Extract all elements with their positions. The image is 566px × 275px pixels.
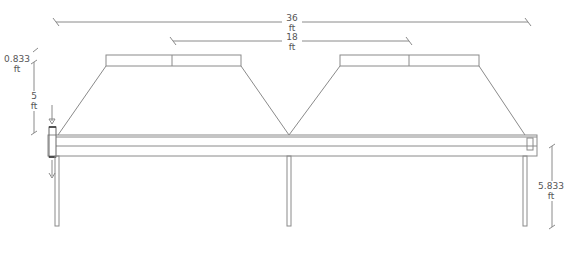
dim-unit: ft — [536, 191, 566, 201]
left-hood-side-l — [58, 66, 106, 135]
beam-end-fitting-left — [49, 127, 56, 157]
dim-value: 18 — [282, 32, 302, 42]
dim-label-overall: 36 ft — [282, 13, 302, 33]
dim-unit: ft — [26, 101, 42, 111]
right-hood-side-l — [289, 66, 340, 135]
leg-left — [55, 156, 59, 226]
right-hood-side-r — [479, 66, 525, 135]
dim-tick — [33, 48, 38, 52]
dim-value: 0.833 — [3, 54, 31, 64]
dim-label-hood-height: 5 ft — [26, 91, 42, 111]
leg-right — [523, 156, 527, 226]
dim-unit: ft — [282, 42, 302, 52]
dim-value: 5 — [26, 91, 42, 101]
dim-label-spacing: 18 ft — [282, 32, 302, 52]
left-hood-side-r — [241, 66, 289, 135]
dim-label-clearance: 5.833 ft — [536, 181, 566, 201]
dim-value: 5.833 — [536, 181, 566, 191]
dim-unit: ft — [3, 64, 31, 74]
leg-middle — [287, 156, 291, 226]
left-hood-cap — [106, 55, 241, 66]
dim-value: 36 — [282, 13, 302, 23]
dim-label-cap-height: 0.833 ft — [3, 54, 31, 74]
beam-end-cap-right — [527, 138, 533, 150]
